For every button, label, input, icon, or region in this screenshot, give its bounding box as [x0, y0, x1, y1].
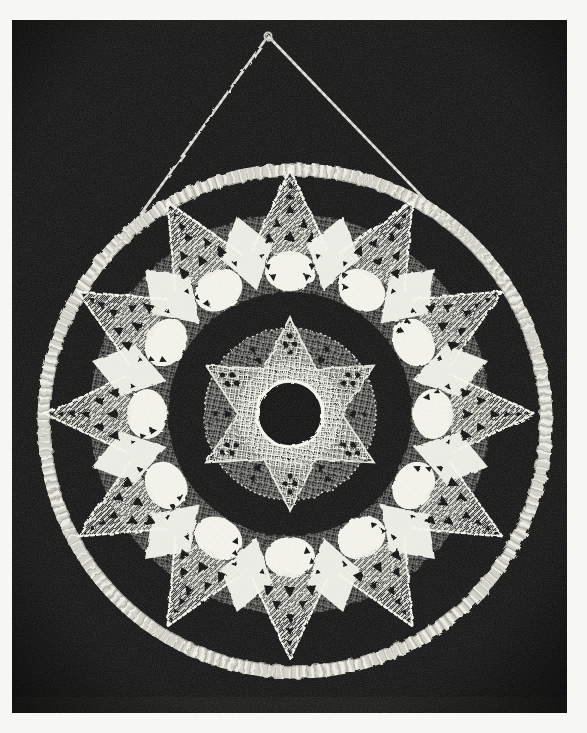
photo-grain-overlay — [12, 20, 567, 713]
photo-canvas — [0, 0, 587, 733]
lace-star-photograph — [0, 0, 587, 733]
vignette — [12, 20, 567, 713]
